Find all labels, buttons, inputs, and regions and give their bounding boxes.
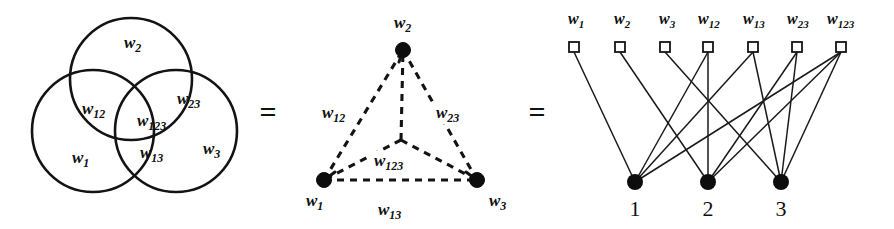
figure-root: w1w2w3w12w13w23w123 w1w2w3w12w23w13w123 … <box>0 0 894 229</box>
bipartite-edge-w123-to-1 <box>635 52 841 182</box>
bipartite-weight-w23-label: w23 <box>787 10 809 30</box>
bipartite-weight-w2-square <box>615 42 625 52</box>
venn-circle-set3 <box>115 70 237 192</box>
equals-sign-1: = <box>259 95 276 128</box>
region-w23-label: w23 <box>177 89 200 111</box>
triangle-hyperedge-w123-spoke-2 <box>401 50 403 140</box>
bipartite-weight-w12-square <box>703 42 713 52</box>
region-w1-label: w1 <box>72 148 89 170</box>
region-w3-label: w3 <box>203 139 220 161</box>
region-w2-label: w2 <box>124 33 141 55</box>
region-w12-label: w12 <box>82 99 105 121</box>
triangle-hypergraph: w1w2w3w12w23w13w123 <box>306 13 506 222</box>
bipartite-weight-w13-label: w13 <box>743 10 765 30</box>
bipartite-incidence-graph: w1w2w3w12w13w23w123123 <box>568 10 855 221</box>
bipartite-element-3-label: 3 <box>776 196 787 221</box>
bipartite-element-1 <box>627 174 643 190</box>
bipartite-element-2-label: 2 <box>703 196 714 221</box>
bipartite-weight-w13-square <box>748 42 758 52</box>
bipartite-weight-w1-square <box>569 42 579 52</box>
figure-canvas: w1w2w3w12w13w23w123 w1w2w3w12w23w13w123 … <box>0 0 894 229</box>
venn-circle-set1 <box>32 70 154 192</box>
bipartite-weight-w23-square <box>792 42 802 52</box>
bipartite-edge-w123-to-2 <box>708 52 841 182</box>
triangle-vertex-w1 <box>317 173 332 188</box>
bipartite-edge-w12-to-1 <box>635 52 708 182</box>
triangle-vertex-w3 <box>470 173 485 188</box>
bipartite-weight-w12-label: w12 <box>698 10 720 30</box>
bipartite-edge-w3-to-3 <box>665 52 781 182</box>
bipartite-element-1-label: 1 <box>630 196 641 221</box>
bipartite-weight-w123-square <box>836 42 846 52</box>
bipartite-weight-w2-label: w2 <box>614 10 631 30</box>
triangle-vertex-w3-label: w3 <box>489 191 506 213</box>
bipartite-weight-w3-label: w3 <box>659 10 676 30</box>
triangle-vertex-w1-label: w1 <box>306 191 323 213</box>
triangle-vertex-w2 <box>396 43 411 58</box>
triangle-vertex-w2-label: w2 <box>394 13 411 35</box>
venn-diagram: w1w2w3w12w13w23w123 <box>32 18 237 192</box>
bipartite-element-3 <box>773 174 789 190</box>
bipartite-edge-w13-to-3 <box>753 52 781 182</box>
bipartite-element-2 <box>700 174 716 190</box>
bipartite-weight-w1-label: w1 <box>568 10 584 30</box>
bipartite-weight-w123-label: w123 <box>827 10 855 30</box>
equals-sign-2: = <box>528 95 545 128</box>
bipartite-edge-w1-to-1 <box>574 52 635 182</box>
bipartite-weight-w3-square <box>660 42 670 52</box>
